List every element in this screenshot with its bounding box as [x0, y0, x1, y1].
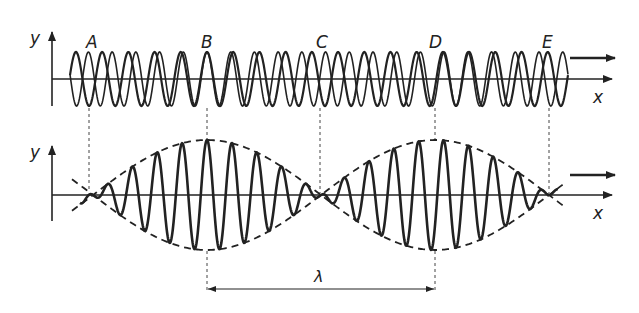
- point-label-e: E: [542, 32, 553, 52]
- point-label-d: D: [429, 32, 442, 52]
- top-y-axis-label: y: [29, 28, 41, 48]
- bottom-x-axis-label: x: [592, 203, 604, 223]
- top-panel: y x A B C D E: [29, 28, 615, 107]
- guide-lines: [89, 108, 549, 292]
- point-label-a: A: [85, 32, 98, 52]
- bottom-panel: y x: [29, 140, 615, 250]
- wavelength-marker: λ: [208, 267, 434, 289]
- point-label-c: C: [316, 32, 328, 52]
- beats-diagram: y x A B C D E y x λ: [0, 0, 639, 313]
- beat-waveform: [80, 140, 558, 250]
- bottom-y-axis-label: y: [29, 142, 41, 162]
- top-x-axis-label: x: [592, 87, 604, 107]
- wavelength-label: λ: [313, 267, 323, 286]
- point-label-b: B: [201, 32, 213, 52]
